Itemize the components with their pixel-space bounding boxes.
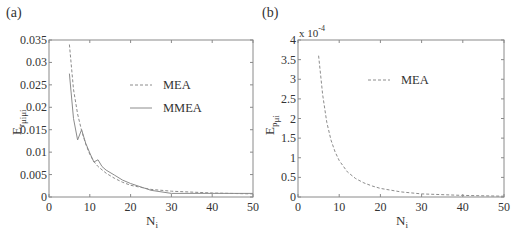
y-tick-label: 0.01: [26, 145, 47, 159]
y-axis-label-b: Epμi: [262, 115, 281, 135]
y-tick-label: 0.035: [20, 33, 47, 47]
legend-a: MEA MMEA: [130, 78, 202, 115]
y-tick-label: 0: [290, 190, 296, 204]
y-tick-label: 1.5: [281, 131, 296, 145]
y-tick-label: 0.025: [20, 78, 47, 92]
y-tick-label: 1: [290, 151, 296, 165]
y-tick-label: 0.03: [26, 55, 47, 69]
legend-b: MEA: [368, 73, 429, 87]
legend-mmea-label: MMEA: [163, 101, 202, 115]
x-tick-label: 10: [333, 200, 345, 214]
panel-b: (b) x 10-4 0102030405000.511.522.533.54 …: [262, 5, 510, 230]
legend-mea-label-b: MEA: [401, 73, 429, 87]
x-tick-label: 50: [498, 200, 510, 214]
plot-area-a: [49, 40, 253, 197]
y-tick-label: 3.5: [281, 53, 296, 67]
axis-ticks-b: 0102030405000.511.522.533.54: [281, 33, 510, 214]
y-tick-label: 0.5: [281, 170, 296, 184]
y-multiplier-b: x 10-4: [299, 24, 325, 39]
x-tick-label: 40: [457, 200, 469, 214]
panel-a: (a) 0102030405000.0050.010.0150.020.0250…: [6, 5, 259, 230]
series-mea-line: [69, 45, 253, 194]
y-tick-label: 2: [290, 112, 296, 126]
x-tick-label: 30: [416, 200, 428, 214]
series-mmea-line: [69, 74, 253, 194]
x-tick-label: 30: [165, 200, 177, 214]
y-tick-label: 4: [290, 33, 296, 47]
figure: (a) 0102030405000.0050.010.0150.020.0250…: [0, 0, 515, 233]
x-tick-label: 10: [84, 200, 96, 214]
x-tick-label: 50: [247, 200, 259, 214]
x-axis-label-b: Ni: [396, 213, 408, 230]
y-tick-label: 3: [290, 72, 296, 86]
x-axis-label-a: Ni: [146, 213, 158, 230]
y-tick-label: 0.005: [20, 168, 47, 182]
panel-b-label: (b): [262, 5, 279, 21]
legend-mea-label: MEA: [163, 78, 191, 92]
y-tick-label: 0.02: [26, 100, 47, 114]
x-tick-label: 20: [374, 200, 386, 214]
data-lines-a: [69, 45, 253, 194]
x-tick-label: 40: [206, 200, 218, 214]
panel-a-label: (a): [6, 5, 22, 21]
y-tick-label: 2.5: [281, 92, 296, 106]
x-tick-label: 20: [125, 200, 137, 214]
y-tick-label: 0: [41, 190, 47, 204]
plot-area-b: [298, 40, 504, 197]
